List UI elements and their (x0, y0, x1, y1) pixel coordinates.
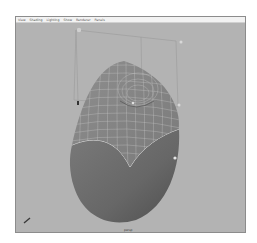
manipulator-center (132, 102, 135, 105)
axis-indicator-icon (22, 215, 32, 225)
surface-handle (173, 156, 176, 159)
scene-render[interactable] (16, 17, 246, 233)
pivot-handle (77, 101, 79, 105)
camera-label: persp (124, 228, 132, 232)
cage-handle (77, 28, 81, 32)
3d-viewport[interactable]: View Shading Lighting Show Renderer Pane… (15, 16, 246, 233)
cage-handle (178, 104, 181, 107)
cage-handle (180, 41, 183, 44)
